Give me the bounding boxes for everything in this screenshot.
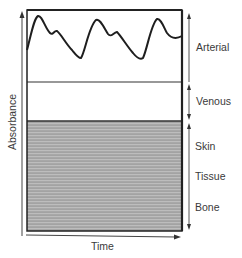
skin-label: Skin bbox=[195, 140, 215, 152]
absorbance-diagram bbox=[0, 0, 242, 258]
bone-label: Bone bbox=[195, 201, 220, 213]
tissue-label: Tissue bbox=[195, 170, 226, 182]
x-axis-arrow bbox=[26, 235, 176, 237]
venous-label: Venous bbox=[196, 95, 231, 107]
y-axis-label: Absorbance bbox=[6, 94, 18, 150]
skin-tissue-bone-range-arrow bbox=[187, 123, 191, 230]
venous-range-arrow bbox=[187, 84, 191, 120]
arterial-label: Arterial bbox=[196, 41, 229, 53]
skin-tissue-bone-region bbox=[27, 121, 182, 231]
arterial-range-arrow bbox=[187, 13, 191, 82]
arterial-waveform bbox=[27, 16, 182, 59]
x-axis-label: Time bbox=[91, 240, 114, 252]
